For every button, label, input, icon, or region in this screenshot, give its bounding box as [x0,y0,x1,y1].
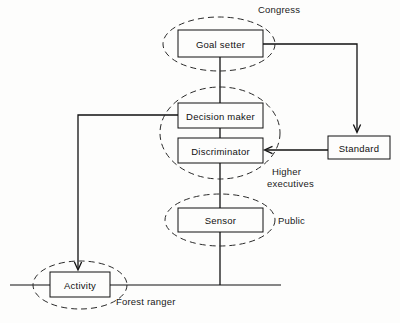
node-standard-label: Standard [339,143,380,154]
node-sensor-label: Sensor [205,215,237,226]
node-goal-setter-label: Goal setter [196,39,245,50]
control-system-diagram: Goal setter Decision maker Discriminator… [0,0,400,323]
node-decision-maker-label: Decision maker [186,111,255,122]
group-label-public: Public [278,215,305,226]
node-activity-label: Activity [64,280,96,291]
group-label-forest-ranger: Forest ranger [116,296,176,307]
group-label-higher-executives-line1: Higher [272,166,301,177]
link-decisionmaker-to-activity [78,115,178,268]
link-goalsetter-to-standard [263,44,357,131]
node-discriminator-label: Discriminator [191,146,250,157]
diagram-canvas: Goal setter Decision maker Discriminator… [0,0,400,323]
group-label-higher-executives-line2: executives [267,178,314,189]
group-label-congress: Congress [258,4,300,15]
